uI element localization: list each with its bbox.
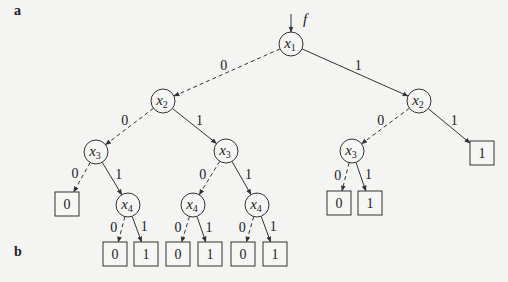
edge-n2R-l2R1 — [428, 109, 470, 143]
leaf-value: 1 — [367, 196, 374, 211]
edge-label: 0 — [220, 58, 227, 73]
edge-n3R-l3R0 — [342, 163, 349, 191]
edge-label: 0 — [199, 167, 206, 182]
leaf-value: 1 — [479, 146, 486, 161]
edge-label: 1 — [355, 58, 362, 73]
edge-label: 1 — [196, 113, 203, 128]
variable-node-n3M: x3 — [214, 139, 238, 163]
edge-label: 0 — [377, 113, 384, 128]
leaf-value: 0 — [64, 197, 71, 212]
variable-node-n2L: x2 — [151, 89, 175, 113]
root-function-label: f — [303, 11, 309, 27]
terminal-leaf-l3R0: 0 — [327, 191, 351, 215]
leaf-value: 1 — [143, 247, 150, 262]
leaf-value: 0 — [112, 247, 119, 262]
variable-node-n4a: x4 — [116, 193, 140, 217]
edge-label: 0 — [174, 220, 181, 235]
edge-label: 1 — [451, 113, 458, 128]
terminal-leaf-l4c0: 0 — [231, 242, 255, 266]
leaf-value: 0 — [240, 247, 247, 262]
edge-label: 1 — [245, 167, 252, 182]
leaf-value: 0 — [175, 247, 182, 262]
edge-label: 1 — [205, 220, 212, 235]
decision-tree-diagram: 010101010101010101 x1x2x2x3x3x3x4x4x4 01… — [0, 0, 508, 282]
terminal-leaf-l4c1: 1 — [263, 242, 287, 266]
terminal-leaf-l3L0: 0 — [55, 192, 79, 216]
edge-label: 0 — [239, 220, 246, 235]
terminal-leaf-l4a1: 1 — [134, 242, 158, 266]
edge-label: 0 — [110, 220, 117, 235]
edge-label: 0 — [334, 168, 341, 183]
variable-node-n3R: x3 — [340, 139, 364, 163]
terminal-leaf-l4b0: 0 — [166, 242, 190, 266]
edge-label: 1 — [270, 219, 277, 234]
terminal-leaf-l4b1: 1 — [198, 242, 222, 266]
terminal-leaf-l2R1: 1 — [470, 141, 494, 165]
leaf-value: 1 — [272, 247, 279, 262]
edge-n2L-n3M — [172, 108, 216, 143]
edge-n2L-n3L — [106, 108, 154, 144]
variable-node-n3L: x3 — [84, 140, 108, 164]
leaf-value: 0 — [336, 196, 343, 211]
edge-label: 1 — [141, 219, 148, 234]
edge-label: 1 — [365, 167, 372, 182]
leaf-value: 1 — [207, 247, 214, 262]
root-pointer: f — [291, 11, 309, 32]
terminal-leaf-l4a0: 0 — [103, 242, 127, 266]
variable-node-n4b: x4 — [181, 193, 205, 217]
edge-label: 0 — [71, 166, 78, 181]
edge-label: 1 — [115, 167, 122, 182]
variable-node-n2R: x2 — [407, 89, 431, 113]
terminal-leaf-l3R1: 1 — [358, 191, 382, 215]
edge-n4b-l4b0 — [182, 216, 190, 242]
edge-n4a-l4a0 — [118, 217, 125, 242]
edge-label: 0 — [121, 113, 128, 128]
edge-n2R-n3R — [362, 108, 410, 144]
variable-node-n4c: x4 — [245, 193, 269, 217]
variable-node-n1: x1 — [279, 32, 303, 56]
edge-n4c-l4c0 — [246, 217, 253, 242]
